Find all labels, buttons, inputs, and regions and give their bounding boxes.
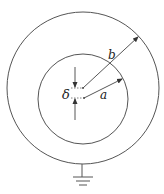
eccentric-coaxial-diagram: δ a b	[0, 0, 164, 194]
delta-label: δ	[62, 87, 70, 102]
radius-b-arrow	[83, 37, 138, 88]
inner-conductor-circle	[38, 54, 128, 144]
ground-icon	[73, 164, 93, 185]
a-label: a	[100, 88, 107, 102]
b-label: b	[108, 48, 116, 62]
